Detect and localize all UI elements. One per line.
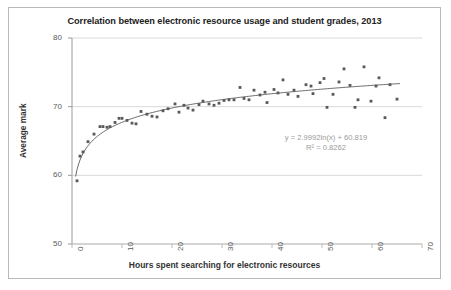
data-point (228, 98, 231, 101)
data-point (389, 83, 392, 86)
x-tick-label: 40 (276, 242, 285, 251)
data-point (264, 91, 267, 94)
data-point (93, 133, 96, 136)
data-point (319, 81, 322, 84)
data-point (167, 107, 170, 110)
y-tick-label: 50 (42, 239, 62, 248)
data-point (213, 104, 216, 107)
plot-area (9, 8, 442, 280)
data-point (135, 122, 138, 125)
data-point (121, 117, 124, 120)
data-point (396, 98, 399, 101)
data-point (312, 92, 315, 95)
data-point (202, 100, 205, 103)
gridlines (72, 38, 422, 244)
data-point (349, 84, 352, 87)
x-tick-label: 0 (76, 247, 85, 251)
data-point (370, 100, 373, 103)
data-point (87, 140, 90, 143)
data-point (354, 106, 357, 109)
data-point (343, 68, 346, 71)
data-point (323, 77, 326, 80)
data-point (183, 104, 186, 107)
trendline-path (76, 84, 400, 177)
data-point (79, 155, 82, 158)
data-point (310, 85, 313, 88)
data-point (102, 125, 105, 128)
data-point (126, 119, 129, 122)
x-tick-label: 60 (376, 242, 385, 251)
data-point (162, 109, 165, 112)
data-point (140, 110, 143, 113)
y-tick-label: 80 (42, 33, 62, 42)
data-point (363, 65, 366, 68)
data-point (259, 94, 262, 97)
data-point (277, 92, 280, 95)
data-point (223, 99, 226, 102)
y-tick-label: 60 (42, 170, 62, 179)
data-point (384, 116, 387, 119)
data-point (253, 89, 256, 92)
data-point (375, 85, 378, 88)
data-point (198, 103, 201, 106)
data-point (156, 116, 159, 119)
data-point (118, 117, 121, 120)
data-point (131, 122, 134, 125)
data-point (106, 126, 109, 129)
x-tick-label: 20 (176, 242, 185, 251)
data-point (146, 113, 149, 116)
data-point (114, 121, 117, 124)
x-tick-label: 70 (426, 242, 435, 251)
axis-lines (72, 38, 422, 244)
x-tick-label: 30 (226, 242, 235, 251)
data-point (326, 106, 329, 109)
data-point (332, 93, 335, 96)
data-point (378, 76, 381, 79)
data-point (178, 111, 181, 114)
trendline (76, 84, 400, 177)
data-point (297, 95, 300, 98)
x-tick-label: 10 (126, 242, 135, 251)
data-point (218, 102, 221, 105)
data-point (287, 93, 290, 96)
data-point (151, 115, 154, 118)
scatter-points (76, 65, 399, 182)
data-point (293, 89, 296, 92)
data-point (357, 98, 360, 101)
data-point (233, 98, 236, 101)
x-tick-label: 50 (326, 242, 335, 251)
data-point (248, 98, 251, 101)
chart-container: Correlation between electronic resource … (8, 7, 441, 279)
data-point (282, 78, 285, 81)
data-point (273, 88, 276, 91)
data-point (338, 81, 341, 84)
data-point (109, 125, 112, 128)
data-point (82, 151, 85, 154)
tick-marks (68, 38, 422, 248)
data-point (174, 103, 177, 106)
data-point (239, 86, 242, 89)
data-point (266, 101, 269, 104)
data-point (76, 179, 79, 182)
data-point (208, 103, 211, 106)
data-point (305, 83, 308, 86)
data-point (243, 97, 246, 100)
data-point (99, 125, 102, 128)
data-point (192, 109, 195, 112)
data-point (187, 107, 190, 110)
y-tick-label: 70 (42, 102, 62, 111)
